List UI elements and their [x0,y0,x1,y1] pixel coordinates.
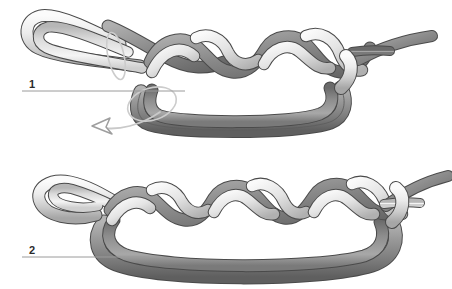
knot-illustration-figure: 1 [0,0,452,289]
knot-diagram-svg: 1 [0,0,452,289]
step-2-number: 2 [29,244,35,256]
step-1-number: 1 [29,78,35,90]
